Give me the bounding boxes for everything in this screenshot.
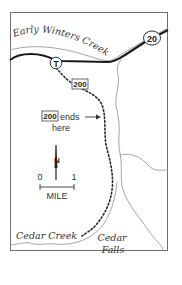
svg-text:T: T: [53, 59, 59, 69]
trail-end-text-1: ends: [60, 112, 80, 122]
trail-end-marker: 200: [43, 112, 57, 121]
trail-end-text-2: here: [52, 123, 70, 133]
cedar-falls-label-line2: Falls: [101, 244, 125, 255]
scale-end: 1: [71, 172, 76, 182]
trail-200-marker: 200: [72, 79, 88, 89]
trailhead-marker: T: [50, 57, 62, 69]
svg-text:200: 200: [73, 80, 87, 89]
trail-map: Early Winters Creek 20 T 200 200 ends he…: [0, 0, 182, 285]
cedar-creek-label: Cedar Creek: [16, 230, 77, 241]
highway-20-shield: 20: [144, 31, 161, 45]
svg-text:N: N: [54, 156, 60, 165]
scale-start: 0: [37, 172, 42, 182]
cedar-falls-label-line1: Cedar: [97, 232, 128, 243]
svg-text:20: 20: [147, 34, 157, 44]
scale-unit: MILE: [46, 191, 67, 201]
